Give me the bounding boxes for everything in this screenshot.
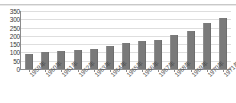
bar[interactable] <box>25 54 33 69</box>
x-label-slot: 1963年 <box>86 70 102 103</box>
x-label-slot: 1962年 <box>69 70 85 103</box>
y-axis-tick-label: 100 <box>1 49 20 56</box>
y-axis-tick-label: 0 <box>1 66 20 73</box>
y-axis-tick-label: 250 <box>1 24 20 31</box>
x-label-slot: 1970年 <box>199 70 215 103</box>
bar-series <box>21 11 231 69</box>
top-divider-shadow <box>0 5 236 6</box>
bar-chart: 050100150200250300350 1959年1960年1961年196… <box>0 8 236 103</box>
y-axis: 050100150200250300350 <box>0 11 20 69</box>
x-label-slot: 1965年 <box>118 70 134 103</box>
x-label-slot: 1959年 <box>21 70 37 103</box>
y-axis-tick-label: 150 <box>1 41 20 48</box>
x-label-slot: 1961年 <box>53 70 69 103</box>
x-label-slot: 1971年 <box>215 70 231 103</box>
x-label-slot: 1960年 <box>37 70 53 103</box>
y-axis-tick-label: 50 <box>1 57 20 64</box>
bar-slot <box>21 11 37 69</box>
x-label-slot: 1966年 <box>134 70 150 103</box>
x-label-slot: 1968年 <box>166 70 182 103</box>
x-axis-labels: 1959年1960年1961年1962年1963年1964年1965年1966年… <box>21 70 231 103</box>
y-axis-tick-label: 350 <box>1 8 20 15</box>
x-label-slot: 1964年 <box>102 70 118 103</box>
chart-screenshot: 050100150200250300350 1959年1960年1961年196… <box>0 0 236 103</box>
x-label-slot: 1969年 <box>183 70 199 103</box>
x-label-slot: 1967年 <box>150 70 166 103</box>
y-axis-tick-label: 300 <box>1 16 20 23</box>
y-axis-tick-label: 200 <box>1 32 20 39</box>
